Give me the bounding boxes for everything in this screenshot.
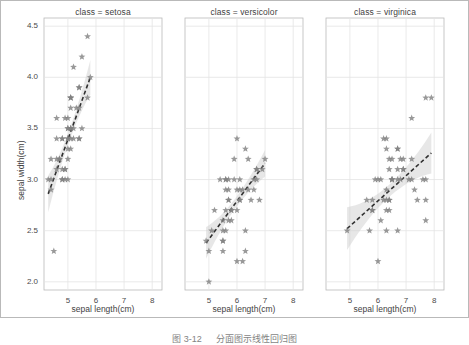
caption-number: 图 3-12 [172,334,202,344]
x-axis-label-panel-1: sepal length(cm) [44,304,162,314]
panel-title-virginica: class = virginica [326,7,444,17]
x-axis-label-panel-2: sepal length(cm) [185,304,303,314]
x-tick-label: 5 [200,296,218,305]
y-tick-label: 4.0 [20,72,38,81]
x-tick-label: 5 [341,296,359,305]
x-tick-label: 8 [143,296,161,305]
caption-text: 分面图示线性回归图 [216,334,297,344]
x-tick-label: 8 [425,296,443,305]
y-tick-label: 2.0 [20,277,38,286]
panel-title-versicolor: class = versicolor [185,7,303,17]
figure-caption: 图 3-12分面图示线性回归图 [0,333,469,345]
x-tick-label: 7 [115,296,133,305]
x-tick-label: 8 [284,296,302,305]
x-tick-label: 7 [397,296,415,305]
y-tick-label: 3.5 [20,123,38,132]
x-tick-label: 5 [59,296,77,305]
x-tick-label: 6 [228,296,246,305]
x-tick-label: 6 [87,296,105,305]
y-axis-label: sepal width(cm) [16,140,26,200]
x-axis-label-panel-3: sepal length(cm) [326,304,444,314]
x-tick-label: 7 [256,296,274,305]
x-tick-label: 6 [369,296,387,305]
y-tick-label: 2.5 [20,226,38,235]
y-tick-label: 4.5 [20,21,38,30]
panel-title-setosa: class = setosa [44,7,162,17]
y-tick-label: 3.0 [20,175,38,184]
